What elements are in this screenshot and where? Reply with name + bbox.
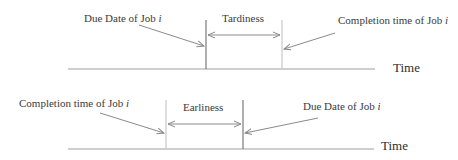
tardiness-label: Tardiness [222,13,264,24]
bottom-completion-label: Completion time of Job i [19,98,129,109]
label-text: Completion time of Job [338,14,445,26]
bottom-time-label: Time [381,139,408,152]
label-text: Completion time of Job [19,97,126,109]
job-variable: i [159,12,162,24]
top-completion-pointer-arrow [284,33,335,49]
tardiness-earliness-diagram: Due Date of Job i Tardiness Completion t… [0,0,458,160]
top-time-label: Time [393,61,420,74]
bottom-due-date-label: Due Date of Job i [303,101,381,112]
label-text: Due Date of Job [303,100,378,112]
bottom-due-date-pointer-arrow [245,118,318,133]
label-text: Due Date of Job [84,12,159,24]
top-completion-label: Completion time of Job i [338,15,448,26]
earliness-label: Earliness [183,102,223,113]
job-variable: i [126,97,129,109]
bottom-completion-pointer-arrow [100,113,164,133]
job-variable: i [378,100,381,112]
top-due-date-label: Due Date of Job i [84,13,162,24]
top-panel [68,20,375,69]
job-variable: i [445,14,448,26]
top-due-date-pointer-arrow [139,25,204,46]
